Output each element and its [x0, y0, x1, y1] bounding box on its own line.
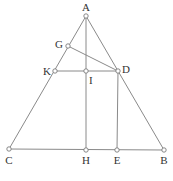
label-G: G: [55, 38, 63, 50]
point-B: [162, 148, 166, 152]
segments-layer: [9, 16, 164, 150]
label-E: E: [114, 154, 121, 166]
label-C: C: [5, 154, 12, 166]
label-K: K: [43, 65, 51, 77]
label-B: B: [160, 154, 167, 166]
label-I: I: [89, 74, 93, 86]
point-C: [7, 147, 11, 151]
point-G: [66, 44, 70, 48]
label-A: A: [82, 1, 90, 13]
point-K: [53, 69, 57, 73]
point-I: [84, 69, 88, 73]
point-H: [84, 148, 88, 152]
point-E: [115, 148, 119, 152]
segment-DE: [117, 71, 118, 150]
point-A: [84, 14, 88, 18]
point-D: [116, 69, 120, 73]
label-H: H: [82, 154, 90, 166]
segment-AB: [86, 16, 164, 150]
geometry-diagram: AGKIDCHEB: [0, 0, 173, 181]
label-D: D: [122, 63, 130, 75]
segment-AC: [9, 16, 86, 149]
